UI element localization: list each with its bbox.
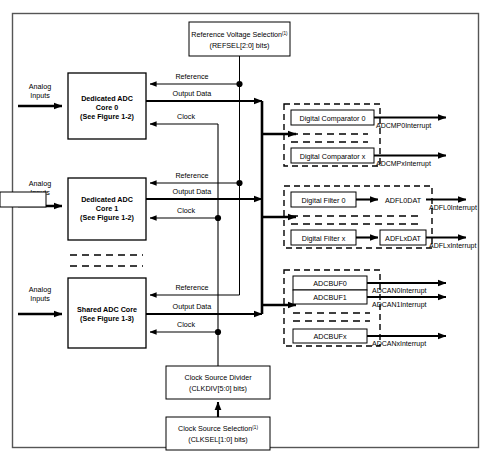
- adcbuf0-label: ADCBUF0: [313, 279, 347, 288]
- core-1-line2: Core 1: [96, 204, 118, 213]
- reference-voltage-block: [189, 22, 290, 56]
- clock-source-selection-line1: Clock Source Selection(1): [178, 424, 258, 433]
- adcan1-interrupt-label: ADCAN1Interrupt: [372, 301, 427, 309]
- core-0-line3: (See Figure 1-2): [80, 112, 135, 121]
- core-0-input-label-2: Inputs: [30, 91, 50, 100]
- clock-source-divider-block: [166, 366, 270, 399]
- clock-source-selection-line2: (CLKSEL[1:0] bits): [188, 435, 248, 444]
- adcan0-interrupt-label: ADCAN0Interrupt: [372, 287, 427, 295]
- core-0-output-label: Output Data: [173, 89, 212, 98]
- core-1-line3: (See Figure 1-2): [80, 213, 135, 222]
- adfl0dat-label: ADFL0DAT: [385, 196, 422, 205]
- adcbuf1-label: ADCBUF1: [313, 293, 347, 302]
- core-1-clock-label: Clock: [177, 206, 195, 215]
- shared-core-reference-label: Reference: [175, 283, 208, 292]
- core-1-reference-junction: [236, 180, 242, 186]
- core-1-output-label: Output Data: [173, 187, 212, 196]
- adfl0-interrupt-label: ADFL0Interrupt: [429, 204, 477, 212]
- core-1-line1: Dedicated ADC: [81, 195, 133, 204]
- reference-voltage-line1: Reference Voltage Selection(1): [191, 30, 288, 39]
- adcbufx-label: ADCBUFx: [313, 332, 347, 341]
- shared-core-line2: (See Figure 1-3): [80, 314, 135, 323]
- adcmpx-interrupt-label: ADCMPxInterrupt: [376, 160, 431, 168]
- core-0-reference-junction: [236, 81, 242, 87]
- reference-voltage-line2: (REFSEL[2:0] bits): [210, 41, 270, 50]
- core-1-input-label-1: Analog: [29, 179, 51, 188]
- digital-comparator-x-label: Digital Comparator x: [300, 152, 366, 161]
- shared-core-line1: Shared ADC Core: [77, 305, 137, 314]
- core-0-line2: Core 0: [96, 103, 118, 112]
- shared-core-clock-label: Clock: [177, 320, 195, 329]
- adflx-interrupt-label: ADFLxInterrupt: [429, 242, 477, 250]
- core-0-line1: Dedicated ADC: [81, 94, 133, 103]
- shared-core-input-label-1: Analog: [29, 285, 51, 294]
- clock-source-selection-block: [166, 417, 270, 450]
- adcanx-interrupt-label: ADCANxInterrupt: [372, 340, 426, 348]
- adfl0dat-block: [0, 192, 46, 207]
- core-0-input-label-1: Analog: [29, 82, 51, 91]
- clock-source-divider-line2: (CLKDIV[5:0] bits): [189, 384, 247, 393]
- shared-core-output-label: Output Data: [173, 302, 212, 311]
- core-1-reference-label: Reference: [175, 171, 208, 180]
- digital-filter-0-label: Digital Filter 0: [302, 196, 346, 205]
- adflxdat-label: ADFLxDAT: [385, 234, 421, 243]
- core-0-reference-label: Reference: [175, 72, 208, 81]
- digital-comparator-0-label: Digital Comparator 0: [300, 114, 366, 123]
- adc-block-diagram: Reference Voltage Selection(1) (REFSEL[2…: [0, 0, 492, 457]
- shared-core-input-label-2: Inputs: [30, 294, 50, 303]
- adcmp0-interrupt-label: ADCMP0Interrupt: [376, 122, 431, 130]
- clock-source-divider-line1: Clock Source Divider: [184, 373, 252, 382]
- core-0-clock-label: Clock: [177, 112, 195, 121]
- digital-filter-x-label: Digital Filter x: [302, 234, 346, 243]
- figure-canvas: Reference Voltage Selection(1) (REFSEL[2…: [0, 0, 492, 457]
